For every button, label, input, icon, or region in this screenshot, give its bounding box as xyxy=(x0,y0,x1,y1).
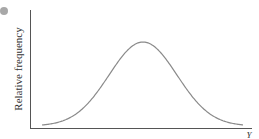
y-axis-label: Relative frequency xyxy=(12,27,24,111)
distribution-curve xyxy=(42,42,243,125)
x-axis-label: Y xyxy=(246,130,252,139)
chart: Relative frequency Y xyxy=(0,0,259,139)
